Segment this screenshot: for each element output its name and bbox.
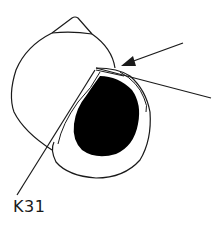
arrowhead-icon [121, 56, 136, 66]
arrow-shaft [128, 43, 183, 63]
shell-diagram: K31 [0, 0, 222, 226]
shell-apex [52, 17, 92, 34]
suture-line [52, 32, 92, 34]
shell-drawing [0, 0, 222, 226]
specimen-label: K31 [13, 197, 45, 216]
